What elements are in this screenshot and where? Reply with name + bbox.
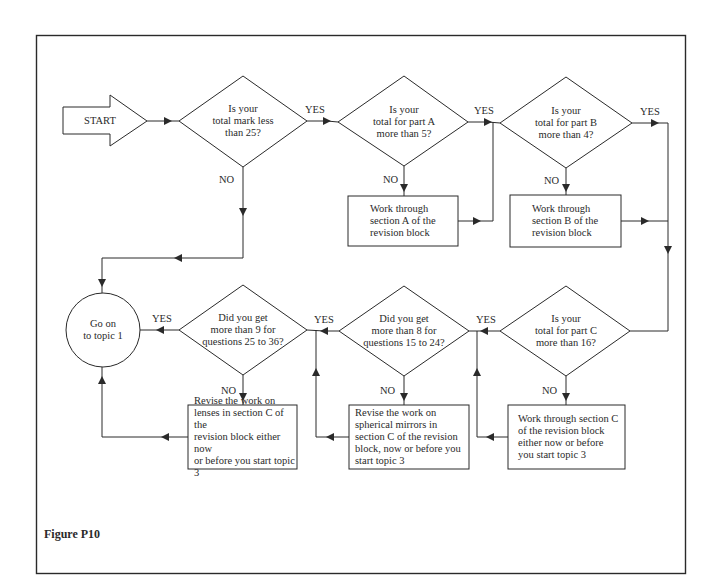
decision-d4-no-label: NO xyxy=(542,385,557,397)
decision-d4-text: Is your total for part C more than 16? xyxy=(518,312,614,350)
decision-d6-text: Did you get more than 9 for questions 25… xyxy=(190,311,296,349)
decision-d1-no-label: NO xyxy=(219,174,234,186)
decision-d6-yes-label: YES xyxy=(152,313,172,325)
decision-d3-text: Is your total for part B more than 4? xyxy=(518,104,614,142)
decision-d2-no-label: NO xyxy=(383,174,398,186)
decision-d5-text: Did you get more than 8 for questions 15… xyxy=(352,312,456,350)
figure-caption: Figure P10 xyxy=(44,527,100,542)
action-a1-text: Work through section A of the revision b… xyxy=(370,198,456,244)
action-a2-text: Work through section B of the revision b… xyxy=(532,197,620,245)
action-a5-text: Revise the work on lenses in section C o… xyxy=(194,407,297,467)
decision-d5-no-label: NO xyxy=(380,385,395,397)
start-label: START xyxy=(70,114,130,128)
decision-d2-yes-label: YES xyxy=(474,105,494,117)
decision-d3-yes-label: YES xyxy=(640,106,660,118)
end-circle-label: Go on to topic 1 xyxy=(70,316,136,344)
decision-d3-no-label: NO xyxy=(544,175,559,187)
decision-d2-text: Is your total for part A more than 5? xyxy=(357,103,451,141)
decision-d4-yes-label: YES xyxy=(476,314,496,326)
action-a4-text: Revise the work on spherical mirrors in … xyxy=(355,405,467,469)
decision-d1-yes-label: YES xyxy=(305,104,325,116)
flowchart-canvas xyxy=(0,0,715,586)
action-a3-text: Work through section C of the revision b… xyxy=(518,407,624,467)
decision-d5-yes-label: YES xyxy=(314,314,334,326)
decision-d1-text: Is your total mark less than 25? xyxy=(198,102,288,140)
